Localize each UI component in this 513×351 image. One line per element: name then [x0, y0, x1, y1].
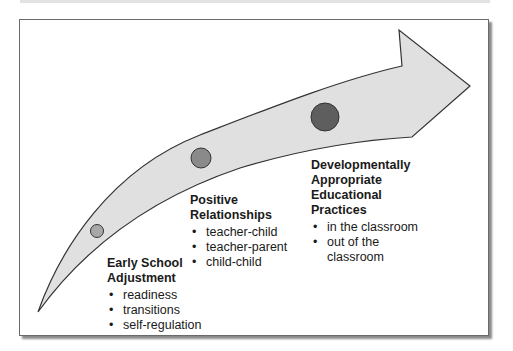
list-item: in the classroom — [311, 220, 416, 235]
list-item: teacher-parent — [190, 240, 320, 255]
stage-positive-relationships: Positive Relationships teacher-child tea… — [190, 193, 320, 270]
list-item: readiness — [107, 288, 247, 303]
stage-marker-medium — [191, 148, 211, 168]
list-item: out of the classroom — [311, 235, 416, 265]
list-item: teacher-child — [190, 225, 320, 240]
title-line: Relationships — [190, 208, 320, 223]
title-line: Adjustment — [107, 271, 247, 286]
title-line: Appropriate — [311, 173, 461, 188]
stage-marker-large — [311, 103, 339, 131]
stage-items: teacher-child teacher-parent child-child — [190, 225, 320, 270]
title-line: Developmentally — [311, 158, 461, 173]
list-item: transitions — [107, 303, 247, 318]
title-line: Educational — [311, 188, 461, 203]
list-item: self-regulation — [107, 318, 247, 333]
stage-items: readiness transitions self-regulation — [107, 288, 247, 333]
stage-items: in the classroom out of the classroom — [311, 220, 416, 265]
stage-title: Developmentally Appropriate Educational … — [311, 158, 461, 218]
stage-developmentally-appropriate-practices: Developmentally Appropriate Educational … — [311, 158, 461, 265]
stage-marker-small — [91, 225, 104, 238]
list-item: child-child — [190, 255, 320, 270]
title-line: Positive — [190, 193, 320, 208]
title-line: Practices — [311, 203, 461, 218]
stage-title: Positive Relationships — [190, 193, 320, 223]
